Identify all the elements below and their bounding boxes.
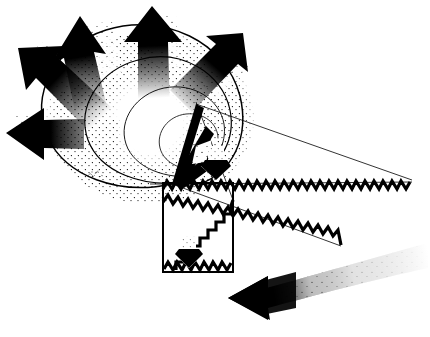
diagram-artwork	[0, 0, 430, 337]
figure-canvas: Radiating spiral with emission arrows an…	[0, 0, 430, 337]
